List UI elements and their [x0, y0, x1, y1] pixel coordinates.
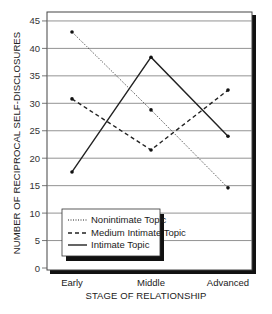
- line-chart: 051015202530354045 Nonintimate Topic Med…: [0, 0, 272, 314]
- y-tick-label: 5: [35, 235, 40, 246]
- data-point: [226, 134, 230, 138]
- data-point: [70, 170, 74, 174]
- data-point: [70, 30, 74, 34]
- y-tick-label: 20: [29, 153, 40, 164]
- x-label-advanced: Advanced: [207, 277, 249, 288]
- y-tick-label: 0: [35, 263, 40, 274]
- y-tick-label: 35: [29, 70, 40, 81]
- y-axis-ticks: 051015202530354045: [29, 15, 47, 273]
- data-point: [70, 97, 74, 101]
- legend-label-nonintimate: Nonintimate Topic: [91, 214, 167, 225]
- legend-label-medium: Medium Intimate Topic: [91, 227, 186, 238]
- data-point: [226, 88, 230, 92]
- y-tick-label: 10: [29, 208, 40, 219]
- y-tick-label: 30: [29, 98, 40, 109]
- data-point: [149, 55, 153, 59]
- y-axis-title: NUMBER OF RECIPROCAL SELF-DISCLOSURES: [11, 32, 22, 254]
- data-point: [226, 186, 230, 190]
- y-tick-label: 25: [29, 125, 40, 136]
- x-axis-title: STAGE OF RELATIONSHIP: [85, 290, 206, 301]
- data-point: [149, 108, 153, 112]
- legend-label-intimate: Intimate Topic: [91, 239, 150, 250]
- data-point: [149, 148, 153, 152]
- y-tick-label: 15: [29, 180, 40, 191]
- x-label-early: Early: [61, 277, 83, 288]
- y-tick-label: 45: [29, 15, 40, 26]
- x-label-middle: Middle: [137, 277, 165, 288]
- y-tick-label: 40: [29, 43, 40, 54]
